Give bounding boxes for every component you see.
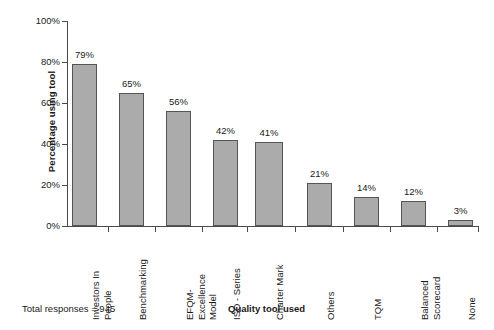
bar-value-label: 56% [152,97,205,107]
y-tick-label: 0% [16,221,60,231]
y-tick-label-wrap: 80% [10,57,60,67]
y-tick-mark [62,103,68,104]
y-tick-label-wrap: 20% [10,180,60,190]
bar [213,140,238,226]
bar [166,111,191,226]
y-tick-label-wrap: 100% [10,16,60,26]
y-tick-label: 60% [16,98,60,108]
x-axis-title: Quality tool used [228,303,305,314]
bar [307,183,332,226]
y-tick-mark [62,144,68,145]
bar-value-label: 41% [241,128,297,138]
bar-value-label: 12% [387,187,440,197]
bar-value-label: 14% [340,183,393,193]
bar [255,142,283,226]
bar [401,201,426,226]
x-category-label: Benchmarking [137,232,161,320]
y-tick-label: 20% [16,180,60,190]
y-tick-label: 100% [16,16,60,26]
bar [119,93,144,226]
y-tick-mark [62,185,68,186]
bar [72,64,97,226]
bar-value-label: 79% [58,50,111,60]
y-tick-label: 40% [16,139,60,149]
y-tick-label: 80% [16,57,60,67]
y-tick-mark [62,21,68,22]
y-tick-label-wrap: 60% [10,98,60,108]
x-category-label: TQM [372,232,396,320]
total-responses-note: Total responses = 945 [22,303,115,314]
bar-value-label: 21% [293,169,346,179]
x-category-label: EFQM- Excellence Model [184,232,208,320]
x-category-label: None [466,232,490,320]
x-category-label: Balanced Scorecard [419,232,443,320]
y-tick-label-wrap: 40% [10,139,60,149]
y-tick-mark [62,62,68,63]
bar-value-label: 65% [105,79,158,89]
x-axis-line [67,226,479,227]
x-category-label: Others [325,232,349,320]
y-tick-label-wrap: 0% [10,221,60,231]
bar [354,197,379,226]
bar-value-label: 3% [434,206,487,216]
bar-chart: Percentage using tool 0%20%40%60%80%100%… [0,0,494,330]
